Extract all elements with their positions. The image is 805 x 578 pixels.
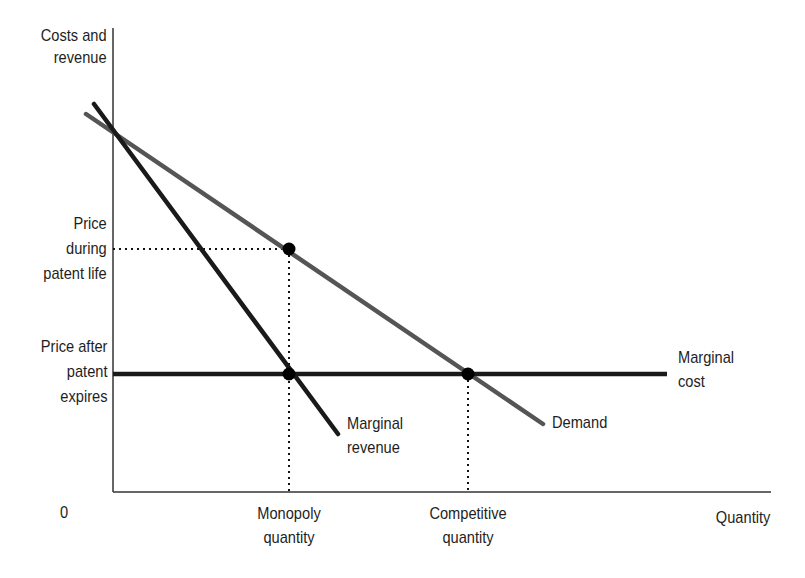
marginal-revenue-line2: revenue [347, 436, 403, 460]
competitive-quantity-line1: Competitive [416, 502, 519, 526]
marginal-revenue-curve [94, 104, 338, 434]
monopoly-quantity-label: Monopoly quantity [237, 502, 340, 550]
monopoly-price-point [283, 243, 296, 256]
price-after-patent-line3: expires [40, 384, 107, 409]
demand-curve [86, 114, 543, 424]
marginal-revenue-line1: Marginal [347, 412, 403, 436]
origin-label: 0 [60, 502, 68, 524]
competitive-quantity-line2: quantity [416, 526, 519, 550]
y-axis-title-line2: revenue [41, 47, 107, 69]
y-axis-title: Costs and revenue [41, 25, 107, 69]
competitive-quantity-label: Competitive quantity [416, 502, 519, 550]
monopoly-quantity-line2: quantity [237, 526, 340, 550]
marginal-revenue-label: Marginal revenue [347, 412, 403, 460]
price-after-patent-label: Price after patent expires [40, 334, 107, 409]
monopoly-quantity-line1: Monopoly [237, 502, 340, 526]
price-during-patent-label: Price during patent life [44, 211, 107, 286]
price-after-patent-line2: patent [40, 359, 107, 384]
demand-label: Demand [552, 412, 607, 434]
x-axis-title: Quantity [716, 507, 770, 529]
price-after-patent-line1: Price after [40, 334, 107, 359]
competitive-equilibrium-point [462, 368, 475, 381]
marginal-cost-label: Marginal cost [678, 346, 734, 394]
mr-mc-intersection-point [283, 368, 296, 381]
price-during-patent-line3: patent life [44, 261, 107, 286]
price-during-patent-line1: Price [44, 211, 107, 236]
y-axis-title-line1: Costs and [41, 25, 107, 47]
chart-canvas [0, 0, 805, 578]
price-during-patent-line2: during [44, 236, 107, 261]
marginal-cost-line1: Marginal [678, 346, 734, 370]
marginal-cost-line2: cost [678, 370, 734, 394]
